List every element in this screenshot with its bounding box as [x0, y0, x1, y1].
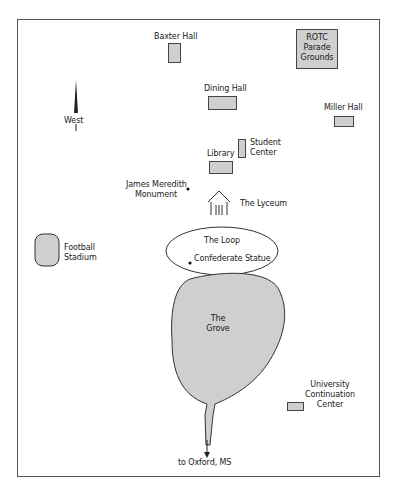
library-label: Library [207, 149, 234, 159]
rotc-label: ROTC Parade Grounds [296, 33, 338, 63]
ucc-label: University Continuation Center [295, 380, 365, 410]
baxter-hall-building [168, 43, 181, 63]
miller-hall-label: Miller Hall [324, 103, 363, 113]
dining-hall-building [208, 96, 237, 110]
exit-label: to Oxford, MS [178, 458, 231, 468]
football-stadium-label: Football Stadium [64, 243, 97, 263]
library-building [209, 161, 233, 174]
meredith-label: James Meredith Monument [126, 180, 186, 200]
student-center-label: Student Center [250, 138, 281, 158]
lyceum-icon [208, 191, 230, 215]
statue-dot [188, 261, 191, 264]
baxter-hall-label: Baxter Hall [154, 32, 197, 42]
football-stadium-shape [35, 234, 59, 266]
student-center-building [238, 139, 246, 158]
compass-label: West [64, 116, 83, 126]
statue-label: Confederate Statue [194, 254, 271, 264]
dining-hall-label: Dining Hall [204, 84, 247, 94]
the-loop-shape [166, 227, 278, 275]
grove-label: The Grove [198, 314, 238, 334]
lyceum-label: The Lyceum [240, 199, 287, 209]
loop-label: The Loop [192, 236, 252, 246]
the-grove-shape [172, 273, 285, 445]
miller-hall-building [334, 116, 354, 127]
